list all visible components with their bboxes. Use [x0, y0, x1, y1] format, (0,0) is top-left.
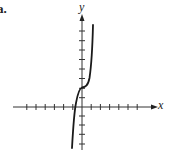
- y-axis-label: y: [79, 0, 84, 15]
- x-axis: [13, 104, 158, 110]
- x-axis-arrow-icon: [151, 105, 158, 110]
- cubic-graph: [0, 0, 170, 160]
- y-axis-arrow-icon: [80, 14, 85, 21]
- y-axis: [79, 14, 85, 150]
- x-axis-label: x: [158, 98, 163, 113]
